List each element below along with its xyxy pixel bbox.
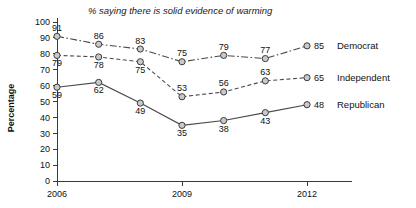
y-tick-label: 80 [40, 49, 50, 59]
data-point-marker [179, 94, 185, 100]
data-point-label: 63 [260, 67, 270, 77]
y-tick-label: 60 [40, 81, 50, 91]
data-point-label: 59 [52, 90, 62, 100]
y-tick-label: 50 [40, 97, 50, 107]
series-end-value: 85 [314, 41, 324, 51]
data-point-label: 91 [52, 23, 62, 33]
legend: 85Democrat65Independent48Republican [314, 40, 390, 110]
series-end-value: 65 [314, 73, 324, 83]
data-point-label: 75 [177, 48, 187, 58]
y-tick-label: 90 [40, 33, 50, 43]
y-tick-label: 30 [40, 129, 50, 139]
data-point-marker [221, 89, 227, 95]
y-tick-label: 0 [45, 176, 50, 186]
data-point-label: 79 [219, 42, 229, 52]
data-point-label: 79 [52, 58, 62, 68]
legend-label-independent: Independent [337, 72, 390, 83]
y-axis-title: Percentage [6, 84, 16, 133]
data-point-label: 86 [94, 31, 104, 41]
data-point-marker [221, 52, 227, 58]
data-point-label: 75 [135, 65, 145, 75]
data-point-label: 78 [94, 60, 104, 70]
data-point-marker [96, 41, 102, 47]
data-point-label: 43 [260, 116, 270, 126]
x-tick-label: 2009 [172, 189, 192, 199]
y-tick-label: 40 [40, 113, 50, 123]
x-tick-label: 2012 [297, 189, 317, 199]
data-point-marker [304, 75, 310, 81]
data-point-label: 62 [94, 85, 104, 95]
data-point-label: 38 [219, 124, 229, 134]
line-chart: % saying there is solid evidence of warm… [0, 0, 416, 208]
chart-title: % saying there is solid evidence of warm… [88, 5, 273, 16]
data-point-marker [262, 78, 268, 84]
x-axis: 200620092012 [47, 181, 352, 199]
data-point-marker [262, 55, 268, 61]
data-point-marker [179, 59, 185, 65]
y-tick-label: 100 [35, 17, 50, 27]
data-point-label: 77 [260, 45, 270, 55]
data-point-marker [54, 33, 60, 39]
x-tick-label: 2006 [47, 189, 67, 199]
data-point-label: 53 [177, 83, 187, 93]
data-point-label: 83 [135, 36, 145, 46]
data-labels-layer: 9186837579778579787553566365596249353843… [52, 23, 312, 139]
chart-container: % saying there is solid evidence of warm… [0, 0, 416, 208]
y-tick-label: 20 [40, 144, 50, 154]
data-point-marker [304, 43, 310, 49]
legend-label-democrat: Democrat [337, 40, 379, 51]
data-point-label: 56 [219, 78, 229, 88]
y-axis: 0102030405060708090100 [35, 17, 57, 186]
data-point-marker [137, 46, 143, 52]
data-point-label: 35 [177, 128, 187, 138]
y-tick-label: 10 [40, 160, 50, 170]
data-point-marker [304, 102, 310, 108]
series-end-value: 48 [314, 100, 324, 110]
legend-label-republican: Republican [337, 99, 385, 110]
data-point-label: 49 [135, 106, 145, 116]
y-tick-label: 70 [40, 65, 50, 75]
